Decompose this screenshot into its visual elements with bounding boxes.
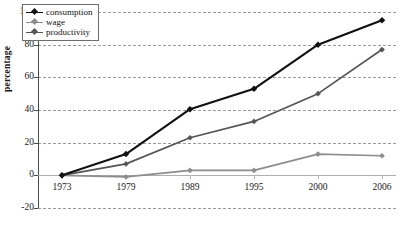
y-tick-label: 40 — [4, 105, 34, 115]
legend-item-productivity[interactable]: productivity — [26, 27, 93, 37]
y-tick-label: 80 — [4, 40, 34, 50]
data-point-marker — [379, 153, 385, 159]
y-tick-label: 60 — [4, 72, 34, 82]
x-tick-label: 1989 — [181, 182, 200, 192]
legend-label: wage — [46, 18, 65, 27]
series-lines — [38, 12, 396, 208]
data-point-marker — [379, 17, 386, 24]
y-tick-label: -20 — [4, 203, 34, 213]
legend-label: productivity — [46, 28, 90, 37]
data-point-marker — [187, 168, 193, 174]
legend-label: consumption — [46, 8, 93, 17]
y-tick-label: 0 — [4, 170, 34, 180]
legend-marker-icon — [26, 18, 43, 27]
data-point-marker — [251, 119, 257, 125]
series-line-consumption — [62, 20, 382, 175]
x-tick-label: 2006 — [373, 182, 392, 192]
x-tick-label: 1995 — [245, 182, 264, 192]
y-tick-label: 20 — [4, 138, 34, 148]
data-point-marker — [251, 168, 257, 174]
legend-item-wage[interactable]: wage — [26, 17, 93, 27]
data-point-marker — [123, 174, 129, 180]
y-tick-mark — [34, 208, 38, 209]
chart-legend: consumptionwageproductivity — [22, 4, 99, 41]
y-axis-tick-labels: 100806040200-20 — [0, 12, 34, 208]
legend-item-consumption[interactable]: consumption — [26, 7, 93, 17]
series-line-productivity — [62, 50, 382, 176]
plot-area — [38, 12, 396, 208]
series-line-wage — [62, 154, 382, 177]
legend-marker-icon — [26, 28, 43, 37]
x-tick-label: 1973 — [53, 182, 72, 192]
legend-marker-icon — [26, 8, 43, 17]
gridline — [38, 208, 396, 209]
line-chart: percentage 100806040200-20 1973197919891… — [0, 0, 407, 226]
data-point-marker — [187, 135, 193, 141]
data-point-marker — [59, 172, 66, 179]
x-tick-label: 2000 — [309, 182, 328, 192]
data-point-marker — [123, 161, 129, 167]
data-point-marker — [315, 151, 321, 157]
x-tick-label: 1979 — [117, 182, 136, 192]
